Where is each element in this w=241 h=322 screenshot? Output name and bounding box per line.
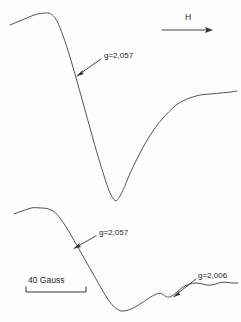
lower-g2-leader-arrow	[173, 279, 197, 298]
lower-g-leader-arrow	[73, 236, 96, 249]
upper-g-leader-arrow	[76, 59, 101, 77]
upper-spectrum-trace	[10, 13, 237, 201]
field-axis-label: H	[185, 13, 191, 22]
scale-bar-label: 40 Gauss	[28, 276, 64, 285]
field-direction-arrow	[162, 27, 213, 33]
upper-g-value-label: g=2,057	[104, 52, 133, 60]
scale-bar	[26, 287, 86, 293]
lower-g-value-label: g=2,057	[99, 229, 128, 237]
esr-spectrum-figure: H g=2,057 g=2,057 g=2,006 40 Gauss	[0, 0, 241, 322]
lower-spectrum-trace	[14, 208, 238, 311]
lower-g2-value-label: g=2,006	[198, 272, 227, 280]
